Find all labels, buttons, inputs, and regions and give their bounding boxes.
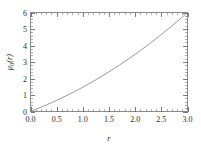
x-tick-label: 0.5 — [52, 115, 62, 124]
y-axis-title-group: μ0(r) — [4, 54, 15, 71]
x-axis-title: r — [107, 133, 111, 143]
x-axis-tick-labels: 0.00.51.01.52.02.53.0 — [26, 115, 193, 124]
y-axis-title: μ0(r) — [4, 54, 15, 71]
x-tick-label: 3.0 — [183, 115, 193, 124]
x-axis-major-ticks — [32, 107, 189, 112]
chart-figure: 0.00.51.01.52.02.53.0 0123456 r μ0(r) — [0, 0, 201, 147]
x-tick-label: 2.5 — [156, 115, 166, 124]
y-tick-label: 4 — [23, 42, 27, 51]
right-frame-minor-ticks — [183, 14, 188, 113]
y-tick-label: 3 — [23, 58, 27, 67]
y-tick-label: 1 — [23, 91, 27, 100]
top-frame-minor-ticks — [32, 13, 189, 18]
x-tick-label: 2.0 — [130, 115, 140, 124]
y-axis-title-argument: (r) — [4, 54, 14, 63]
plot-frame — [31, 13, 188, 112]
y-tick-label: 0 — [23, 108, 27, 117]
y-tick-label: 5 — [23, 25, 27, 34]
y-tick-label: 2 — [23, 75, 27, 84]
y-tick-label: 6 — [23, 9, 27, 18]
plot-canvas: 0.00.51.01.52.02.53.0 0123456 r μ0(r) — [0, 0, 201, 147]
x-tick-label: 1.0 — [78, 115, 88, 124]
y-axis-major-ticks — [31, 14, 36, 113]
y-axis-tick-labels: 0123456 — [23, 9, 27, 117]
x-tick-label: 0.0 — [26, 115, 36, 124]
x-tick-label: 1.5 — [104, 115, 114, 124]
data-curve-mu0 — [31, 13, 188, 112]
